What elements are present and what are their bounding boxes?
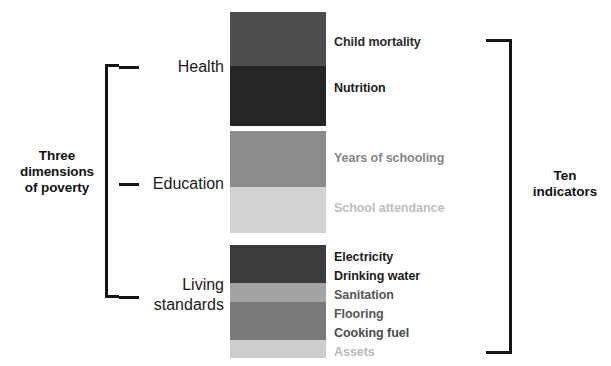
- indicator-label-school-attendance: School attendance: [334, 201, 444, 215]
- tick-living-standards: [119, 296, 139, 299]
- living-band-assets: [230, 340, 326, 358]
- right-bracket-label: Ten indicators: [524, 168, 606, 200]
- indicator-label-nutrition: Nutrition: [334, 81, 386, 95]
- color-block-living-standards: [230, 245, 326, 358]
- dimension-label-living-standards: Living standards: [154, 275, 224, 315]
- education-band-school-attendance: [230, 187, 326, 233]
- tick-health: [119, 66, 139, 69]
- health-band-child-mortality: [230, 12, 326, 66]
- living-band-flooring: [230, 302, 326, 321]
- indicator-label-sanitation: Sanitation: [334, 288, 394, 302]
- left-bracket: [105, 64, 119, 298]
- left-bracket-label: Three dimensions of poverty: [12, 148, 102, 196]
- indicator-label-assets: Assets: [334, 345, 375, 359]
- living-band-electricity: [230, 245, 326, 264]
- right-bracket: [486, 39, 512, 354]
- indicator-label-child-mortality: Child mortality: [334, 35, 421, 49]
- dimension-label-health: Health: [178, 57, 224, 77]
- health-band-nutrition: [230, 66, 326, 126]
- education-band-years-of-schooling: [230, 131, 326, 187]
- living-band-sanitation: [230, 283, 326, 302]
- color-block-health: [230, 12, 326, 126]
- tick-education: [119, 183, 139, 186]
- indicator-label-years-of-schooling: Years of schooling: [334, 151, 444, 165]
- dimension-label-education: Education: [153, 174, 224, 194]
- color-block-education: [230, 131, 326, 233]
- indicator-label-electricity: Electricity: [334, 250, 393, 264]
- indicator-label-drinking-water: Drinking water: [334, 269, 420, 283]
- poverty-dimensions-diagram: Three dimensions of poverty Health Educa…: [0, 0, 611, 366]
- indicator-label-cooking-fuel: Cooking fuel: [334, 326, 409, 340]
- living-band-drinking-water: [230, 264, 326, 283]
- indicator-label-flooring: Flooring: [334, 307, 384, 321]
- living-band-cooking-fuel: [230, 321, 326, 340]
